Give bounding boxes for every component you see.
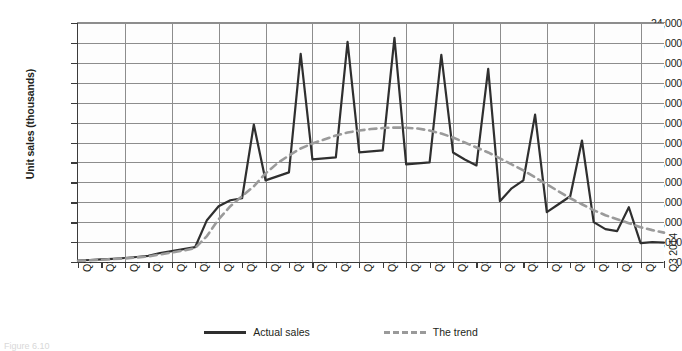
y-tick-mark <box>71 222 77 223</box>
series-actual-sales <box>78 38 664 261</box>
x-tick-mark <box>476 262 477 268</box>
plot-area <box>78 23 664 262</box>
legend-label: Actual sales <box>253 326 310 338</box>
y-tick-mark <box>71 262 77 263</box>
x-tick-mark <box>500 262 501 268</box>
chart-legend: Actual salesThe trend <box>0 322 682 342</box>
x-tick-mark <box>523 262 524 268</box>
x-tick-mark <box>570 262 571 268</box>
x-tick-mark <box>312 262 313 268</box>
x-tick-mark <box>594 262 595 268</box>
y-tick-mark <box>71 202 77 203</box>
legend-item: Actual sales <box>204 326 310 338</box>
y-tick-mark <box>71 162 77 163</box>
x-tick-mark <box>289 262 290 268</box>
x-tick-mark <box>547 262 548 268</box>
x-tick-mark <box>453 262 454 268</box>
x-tick-mark <box>359 262 360 268</box>
x-tick-mark <box>383 262 384 268</box>
series-the-trend <box>78 128 664 261</box>
y-tick-mark <box>71 83 77 84</box>
x-tick-mark <box>195 262 196 268</box>
x-tick-mark <box>242 262 243 268</box>
x-tick-mark <box>617 262 618 268</box>
x-tick-mark <box>430 262 431 268</box>
x-tick-mark <box>78 262 79 268</box>
x-tick-mark <box>101 262 102 268</box>
x-tick-mark <box>172 262 173 268</box>
y-axis-title: Unit sales (thousands) <box>24 34 36 214</box>
x-tick-mark <box>219 262 220 268</box>
y-tick-mark <box>71 63 77 64</box>
y-tick-mark <box>71 143 77 144</box>
y-tick-mark <box>71 123 77 124</box>
legend-label: The trend <box>433 326 478 338</box>
x-tick-mark <box>148 262 149 268</box>
x-tick-mark <box>125 262 126 268</box>
legend-swatch-solid <box>204 331 246 334</box>
x-tick-mark <box>266 262 267 268</box>
legend-item: The trend <box>384 326 478 338</box>
y-tick-mark <box>71 103 77 104</box>
series-lines <box>78 23 664 262</box>
x-tick-mark <box>641 262 642 268</box>
figure-caption: Figure 6.10 <box>4 341 50 351</box>
y-tick-mark <box>71 43 77 44</box>
x-tick-mark <box>664 262 665 268</box>
y-tick-mark <box>71 23 77 24</box>
legend-swatch-dashed <box>384 331 426 334</box>
y-tick-mark <box>71 182 77 183</box>
x-tick-mark <box>336 262 337 268</box>
y-tick-mark <box>71 242 77 243</box>
x-tick-mark <box>406 262 407 268</box>
x-tick-label: Q3 2014 <box>668 233 679 272</box>
